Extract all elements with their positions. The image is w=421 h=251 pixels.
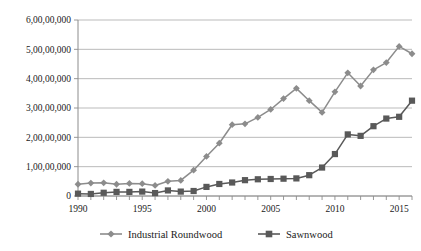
diamond-marker-icon [107, 230, 114, 237]
x-axis-tick-label: 1995 [133, 204, 152, 214]
square-marker-icon [229, 179, 235, 185]
x-axis-tick-label: 2015 [390, 204, 409, 214]
x-axis-tick-label: 1990 [69, 204, 88, 214]
diamond-marker-icon [87, 180, 94, 187]
square-marker-icon [152, 190, 158, 196]
square-marker-icon [358, 133, 364, 139]
diamond-marker-icon [100, 179, 107, 186]
x-axis-tick-label: 2000 [197, 204, 216, 214]
legend-label: Industrial Roundwood [128, 229, 223, 240]
y-axis: 01,00,00,0002,00,00,0003,00,00,0004,00,0… [26, 15, 78, 201]
square-marker-icon [101, 190, 107, 196]
y-axis-tick-label: 5,00,00,000 [26, 45, 71, 55]
series-line [78, 46, 412, 185]
gridlines [78, 20, 412, 196]
square-marker-icon [88, 191, 94, 197]
series-sawnwood [75, 98, 415, 197]
square-marker-icon [216, 181, 222, 187]
square-marker-icon [268, 176, 274, 182]
square-marker-icon [319, 164, 325, 170]
diamond-marker-icon [165, 178, 172, 185]
chart-legend: Industrial RoundwoodSawnwood [100, 229, 333, 240]
diamond-marker-icon [242, 120, 249, 127]
square-marker-icon [113, 189, 119, 195]
square-marker-icon [126, 189, 132, 195]
square-marker-icon [191, 188, 197, 194]
square-marker-icon [293, 175, 299, 181]
square-marker-icon [75, 191, 81, 197]
diamond-marker-icon [113, 181, 120, 188]
square-marker-icon [266, 231, 273, 238]
square-marker-icon [165, 187, 171, 193]
diamond-marker-icon [126, 180, 133, 187]
diamond-marker-icon [254, 114, 261, 121]
y-axis-tick-label: 0 [66, 191, 71, 201]
legend-item-industrial-roundwood[interactable]: Industrial Roundwood [100, 229, 223, 240]
y-axis-tick-label: 6,00,00,000 [26, 15, 71, 25]
square-marker-icon [139, 189, 145, 195]
square-marker-icon [396, 114, 402, 120]
x-axis: 199019952000200520102015 [69, 196, 413, 214]
square-marker-icon [178, 189, 184, 195]
square-marker-icon [203, 184, 209, 190]
diamond-marker-icon [75, 181, 82, 188]
y-axis-tick-label: 3,00,00,000 [26, 103, 71, 113]
square-marker-icon [255, 176, 261, 182]
square-marker-icon [409, 98, 415, 104]
square-marker-icon [332, 151, 338, 157]
square-marker-icon [242, 177, 248, 183]
square-marker-icon [306, 172, 312, 178]
y-axis-tick-label: 2,00,00,000 [26, 133, 71, 143]
y-axis-tick-label: 1,00,00,000 [26, 162, 71, 172]
legend-item-sawnwood[interactable]: Sawnwood [258, 229, 333, 240]
line-chart: 01,00,00,0002,00,00,0003,00,00,0004,00,0… [0, 0, 421, 251]
square-marker-icon [383, 115, 389, 121]
diamond-marker-icon [409, 50, 416, 57]
diamond-marker-icon [139, 180, 146, 187]
x-axis-tick-label: 2005 [261, 204, 280, 214]
chart-canvas: 01,00,00,0002,00,00,0003,00,00,0004,00,0… [0, 0, 421, 251]
diamond-marker-icon [152, 182, 159, 189]
legend-label: Sawnwood [286, 229, 333, 240]
y-axis-tick-label: 4,00,00,000 [26, 74, 71, 84]
data-series [75, 43, 416, 197]
square-marker-icon [280, 176, 286, 182]
x-axis-tick-label: 2010 [325, 204, 344, 214]
square-marker-icon [345, 131, 351, 137]
square-marker-icon [370, 123, 376, 129]
